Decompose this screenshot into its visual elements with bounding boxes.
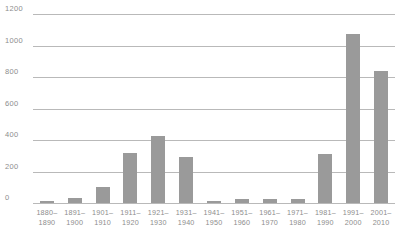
axis-baseline [33, 203, 395, 204]
x-axis-tick-label: 1951–1960 [228, 208, 256, 228]
bar[interactable] [374, 71, 388, 203]
bar[interactable] [291, 199, 305, 203]
y-axis-tick-label: 400 [5, 131, 19, 139]
y-axis-tick-label: 200 [5, 163, 19, 171]
bar[interactable] [207, 201, 221, 203]
bars-layer [33, 14, 395, 203]
x-axis-tick-line2: 1910 [89, 218, 117, 228]
x-axis-tick-line1: 1941– [200, 208, 228, 218]
bar-slot [256, 14, 284, 203]
x-axis-tick-line1: 1911– [117, 208, 145, 218]
bar-slot [144, 14, 172, 203]
x-axis-tick-line2: 2000 [339, 218, 367, 228]
x-axis-tick-line1: 1880– [33, 208, 61, 218]
x-axis-tick-label: 1981–1990 [311, 208, 339, 228]
x-axis-tick-label: 1911–1920 [117, 208, 145, 228]
bar[interactable] [68, 198, 82, 204]
x-axis-tick-label: 1961–1970 [256, 208, 284, 228]
y-axis-tick-label: 800 [5, 68, 19, 76]
x-axis-tick-label: 1931–1940 [172, 208, 200, 228]
bar[interactable] [346, 34, 360, 203]
x-axis-tick-line2: 1940 [172, 218, 200, 228]
bar[interactable] [235, 199, 249, 203]
bar-slot [61, 14, 89, 203]
bar[interactable] [123, 153, 137, 203]
x-axis-tick-line2: 1960 [228, 218, 256, 228]
x-axis-tick-line2: 1900 [61, 218, 89, 228]
x-axis-tick-label: 1891–1900 [61, 208, 89, 228]
y-axis-tick-label: 1000 [5, 37, 23, 45]
x-axis-tick-label: 1991–2000 [339, 208, 367, 228]
bar-slot [89, 14, 117, 203]
x-axis-tick-line1: 1971– [284, 208, 312, 218]
x-axis-tick-label: 2001–2010 [367, 208, 395, 228]
x-axis-tick-label: 1880–1890 [33, 208, 61, 228]
bar-slot [172, 14, 200, 203]
x-axis-tick-line1: 1901– [89, 208, 117, 218]
x-axis-tick-line1: 1991– [339, 208, 367, 218]
bar-slot [284, 14, 312, 203]
x-axis-labels: 1880–18901891–19001901–19101911–19201921… [33, 208, 395, 240]
x-axis-tick-line1: 1951– [228, 208, 256, 218]
x-axis-tick-label: 1901–1910 [89, 208, 117, 228]
x-axis-tick-line2: 1920 [117, 218, 145, 228]
bar-slot [311, 14, 339, 203]
x-axis-tick-line2: 1980 [284, 218, 312, 228]
y-axis-tick-label: 600 [5, 100, 19, 108]
x-axis-tick-line2: 1930 [144, 218, 172, 228]
bar[interactable] [318, 154, 332, 203]
bar-slot [117, 14, 145, 203]
bar-slot [228, 14, 256, 203]
bar[interactable] [151, 136, 165, 203]
bar[interactable] [40, 201, 54, 203]
bar[interactable] [263, 199, 277, 203]
y-axis-tick-label: 1200 [5, 5, 23, 13]
bar-slot [367, 14, 395, 203]
x-axis-tick-line2: 1950 [200, 218, 228, 228]
x-axis-tick-label: 1971–1980 [284, 208, 312, 228]
bar[interactable] [96, 187, 110, 203]
bar-slot [33, 14, 61, 203]
bar-slot [339, 14, 367, 203]
bar-slot [200, 14, 228, 203]
y-axis-tick-label: 0 [5, 194, 10, 202]
x-axis-tick-label: 1941–1950 [200, 208, 228, 228]
x-axis-tick-line1: 2001– [367, 208, 395, 218]
x-axis-tick-label: 1921–1930 [144, 208, 172, 228]
bar-chart: 1880–18901891–19001901–19101911–19201921… [0, 0, 399, 245]
x-axis-tick-line1: 1961– [256, 208, 284, 218]
x-axis-tick-line2: 1890 [33, 218, 61, 228]
x-axis-tick-line1: 1981– [311, 208, 339, 218]
x-axis-tick-line1: 1921– [144, 208, 172, 218]
x-axis-tick-line2: 2010 [367, 218, 395, 228]
x-axis-tick-line2: 1990 [311, 218, 339, 228]
x-axis-tick-line2: 1970 [256, 218, 284, 228]
x-axis-tick-line1: 1931– [172, 208, 200, 218]
x-axis-tick-line1: 1891– [61, 208, 89, 218]
bar[interactable] [179, 157, 193, 203]
